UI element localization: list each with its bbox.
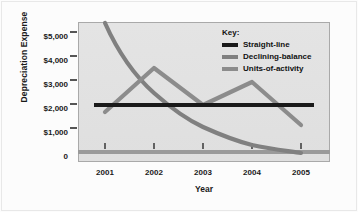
legend-label: Straight-line (243, 40, 290, 49)
y-tick-label: $3,000 (24, 80, 68, 89)
legend-title: Key: (222, 28, 311, 37)
x-axis-title: Year (78, 184, 330, 194)
legend-swatch-icon (222, 55, 238, 59)
y-tick-label: 0 (24, 152, 68, 161)
legend-item-units-of-activity: Units-of-activity (222, 64, 311, 73)
y-axis-tick-labels: $5,000 $4,000 $3,000 $2,000 $1,000 0 (24, 0, 68, 212)
y-tick-label: $1,000 (24, 128, 68, 137)
chart-legend: Key: Straight-line Declining-balance Uni… (222, 28, 311, 76)
y-axis-ticks (70, 32, 77, 128)
x-tick-label: 2001 (85, 168, 125, 177)
chart-figure: Depreciation Expense $5,000 $4,000 $3,00… (0, 0, 358, 212)
legend-swatch-icon (222, 67, 238, 71)
x-tick-label: 2003 (183, 168, 223, 177)
x-tick-label: 2005 (281, 168, 321, 177)
x-tick-label: 2004 (232, 168, 272, 177)
legend-swatch-icon (222, 43, 238, 47)
legend-item-declining-balance: Declining-balance (222, 52, 311, 61)
legend-label: Declining-balance (243, 52, 311, 61)
y-tick-label: $4,000 (24, 56, 68, 65)
y-tick-label: $2,000 (24, 104, 68, 113)
y-tick-label: $5,000 (24, 32, 68, 41)
legend-label: Units-of-activity (243, 64, 303, 73)
legend-item-straight-line: Straight-line (222, 40, 311, 49)
x-tick-label: 2002 (134, 168, 174, 177)
series-line-units-of-activity (105, 68, 301, 125)
